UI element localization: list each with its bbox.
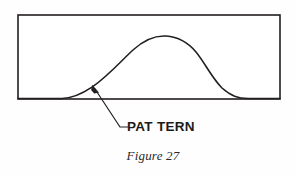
- figure-caption: Figure 27: [0, 148, 296, 164]
- figure-caption-text: Figure 27: [127, 148, 180, 164]
- rectangular-border: [18, 15, 280, 99]
- figure-27-illustration: PAT TERN Figure 27: [0, 0, 296, 176]
- pattern-callout-label: PAT TERN: [127, 119, 195, 134]
